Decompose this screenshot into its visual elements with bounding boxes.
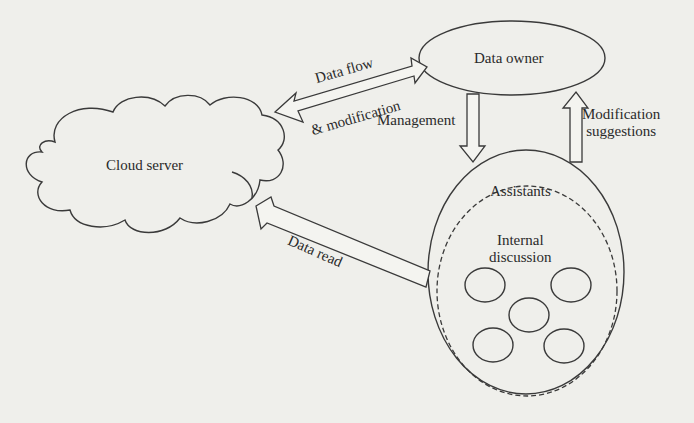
management-label: Management: [377, 112, 455, 129]
cloud-server-label: Cloud server: [106, 157, 183, 174]
modification-suggestions-line1: Modification: [582, 106, 660, 123]
member-node: [473, 328, 513, 362]
management-arrow: [460, 94, 485, 162]
member-node: [509, 298, 549, 332]
member-node: [544, 329, 584, 363]
data-owner-label: Data owner: [474, 50, 544, 67]
diagram-canvas: Data owner Cloud server Data flow & modi…: [0, 0, 694, 423]
assistants-label: Assistants: [490, 183, 551, 200]
member-node: [465, 268, 505, 302]
internal-discussion-line1: Internal: [489, 232, 552, 249]
modification-suggestions-line2: suggestions: [582, 123, 660, 140]
data-read-arrow: [256, 197, 430, 287]
internal-discussion-label: Internal discussion: [489, 232, 552, 267]
cloud-curl: [232, 172, 252, 198]
member-node: [551, 268, 591, 302]
modification-suggestions-label: Modification suggestions: [582, 106, 660, 141]
internal-discussion-line2: discussion: [489, 249, 552, 266]
